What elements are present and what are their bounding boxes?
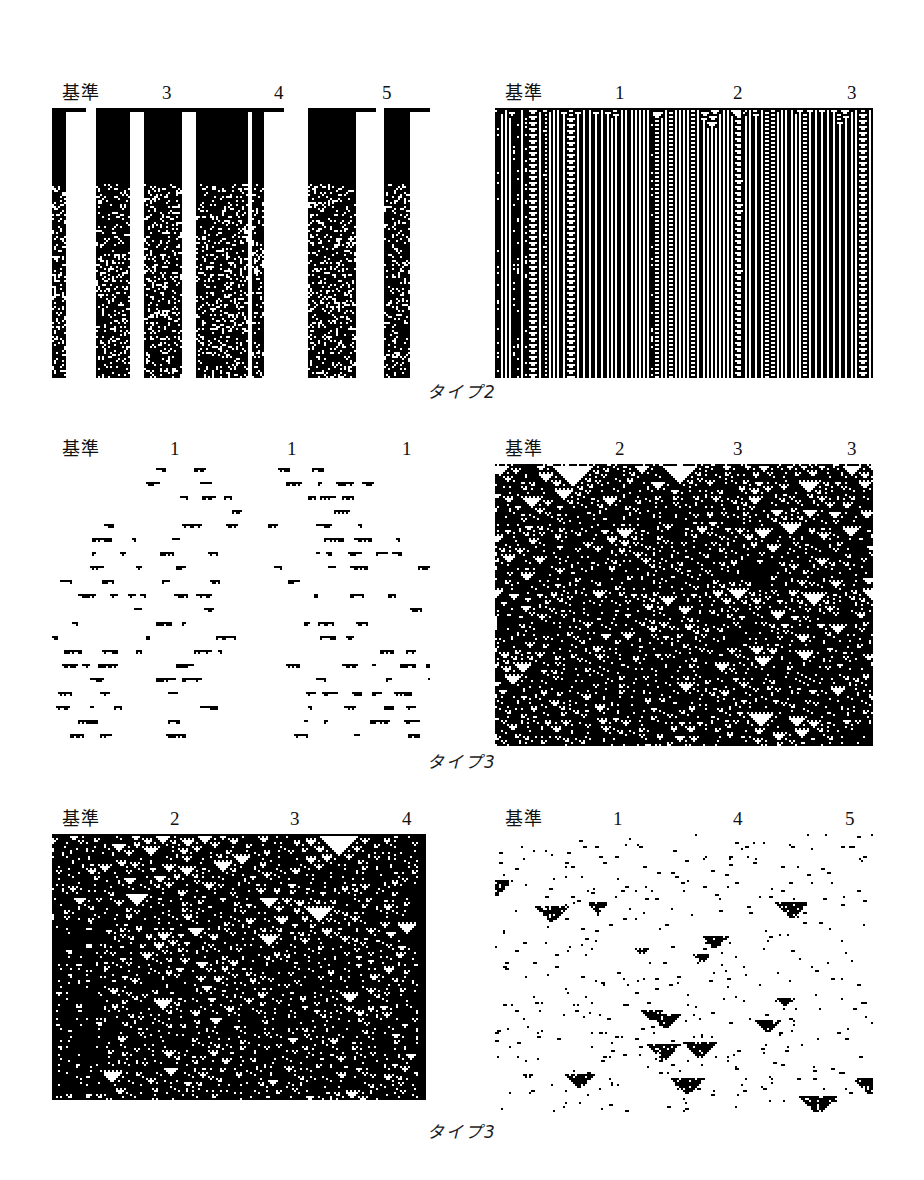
column-marker-label: 4 bbox=[402, 804, 412, 834]
figure-page: 基準345 基準123 タイプ2 基準111 基準233 タイプ3 基準234 … bbox=[0, 0, 924, 1180]
panel-5-plot bbox=[52, 834, 427, 1100]
reference-label: 基準 bbox=[505, 804, 543, 834]
column-marker-label: 3 bbox=[847, 434, 857, 464]
column-marker-label: 1 bbox=[287, 434, 297, 464]
column-marker-label: 2 bbox=[170, 804, 180, 834]
reference-label: 基準 bbox=[62, 434, 100, 464]
column-marker-label: 1 bbox=[402, 434, 412, 464]
column-marker-label: 2 bbox=[733, 78, 743, 108]
panel-6-plot bbox=[495, 834, 873, 1112]
column-marker-label: 5 bbox=[382, 78, 392, 108]
panel-2-plot bbox=[495, 108, 873, 378]
ca-panel-5: 基準234 bbox=[52, 804, 427, 1100]
ca-panel-4: 基準233 bbox=[495, 434, 873, 746]
column-marker-label: 2 bbox=[615, 434, 625, 464]
panel-3-plot bbox=[52, 464, 430, 746]
panel-4-plot bbox=[495, 464, 873, 746]
ca-evolution-canvas bbox=[52, 464, 430, 746]
panel-4-header: 基準233 bbox=[495, 434, 873, 464]
column-marker-label: 3 bbox=[162, 78, 172, 108]
column-marker-label: 4 bbox=[274, 78, 284, 108]
reference-label: 基準 bbox=[62, 804, 100, 834]
panel-2-header: 基準123 bbox=[495, 78, 873, 108]
ca-panel-1: 基準345 bbox=[52, 78, 430, 378]
reference-label: 基準 bbox=[62, 78, 100, 108]
ca-panel-2: 基準123 bbox=[495, 78, 873, 378]
column-marker-label: 5 bbox=[845, 804, 855, 834]
column-marker-label: 3 bbox=[290, 804, 300, 834]
row-2-caption: タイプ3 bbox=[0, 748, 924, 773]
ca-panel-6: 基準145 bbox=[495, 804, 873, 1112]
column-marker-label: 4 bbox=[733, 804, 743, 834]
figure-row-1: 基準345 基準123 bbox=[0, 78, 924, 408]
panel-6-header: 基準145 bbox=[495, 804, 873, 834]
column-marker-label: 3 bbox=[847, 78, 857, 108]
row-3-caption: タイプ3 bbox=[0, 1118, 924, 1143]
row-1-caption: タイプ2 bbox=[0, 378, 924, 403]
ca-panel-3: 基準111 bbox=[52, 434, 430, 746]
ca-evolution-canvas bbox=[52, 834, 427, 1100]
column-marker-label: 1 bbox=[615, 78, 625, 108]
ca-evolution-canvas bbox=[495, 834, 873, 1112]
panel-1-header: 基準345 bbox=[52, 78, 430, 108]
panel-5-header: 基準234 bbox=[52, 804, 427, 834]
ca-evolution-canvas bbox=[495, 108, 873, 378]
reference-label: 基準 bbox=[505, 78, 543, 108]
figure-row-3: 基準234 基準145 bbox=[0, 804, 924, 1149]
column-marker-label: 1 bbox=[170, 434, 180, 464]
column-marker-label: 3 bbox=[733, 434, 743, 464]
panel-3-header: 基準111 bbox=[52, 434, 430, 464]
ca-evolution-canvas bbox=[52, 108, 430, 378]
reference-label: 基準 bbox=[505, 434, 543, 464]
column-marker-label: 1 bbox=[613, 804, 623, 834]
panel-1-plot bbox=[52, 108, 430, 378]
figure-row-2: 基準111 基準233 bbox=[0, 434, 924, 774]
ca-evolution-canvas bbox=[495, 464, 873, 746]
